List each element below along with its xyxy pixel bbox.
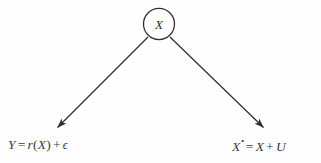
equation-y-error-term: ϵ <box>63 138 68 152</box>
equation-xstar-superscript-marker: • <box>241 136 244 146</box>
node-x-label: X <box>154 17 164 32</box>
equation-xstar-plus: + <box>264 139 276 154</box>
equation-label-y: Y=r(X)+ϵ <box>8 138 68 152</box>
equation-xstar-equals: = <box>244 139 256 154</box>
equation-label-xstar: X•=X+U <box>232 138 286 153</box>
equation-xstar-lhs-var: X <box>232 139 240 154</box>
equation-xstar-error-term: U <box>276 139 286 154</box>
edge-x-to-xstar <box>170 37 264 128</box>
equation-y-lhs: Y <box>8 137 16 152</box>
equation-y-equals: = <box>16 137 28 152</box>
equation-y-plus: + <box>51 137 63 152</box>
causal-diagram: X Y=r(X)+ϵ X•=X+U <box>0 0 321 163</box>
equation-y-function-arg: X <box>38 137 46 152</box>
equation-xstar-rhs-var: X <box>256 139 264 154</box>
edge-x-to-y <box>58 37 149 128</box>
